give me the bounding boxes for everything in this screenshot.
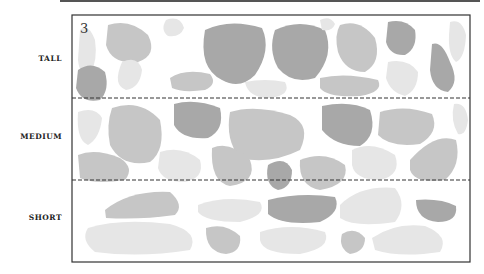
stones-medium — [78, 102, 468, 190]
stones-tall — [76, 18, 466, 101]
stones-short — [85, 188, 456, 255]
figure-number: 3 — [80, 21, 88, 36]
stone-size-diagram: 3 — [0, 0, 484, 274]
